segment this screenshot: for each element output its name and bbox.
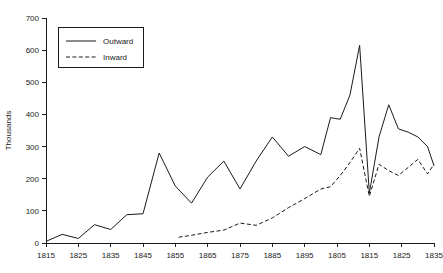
x-tick-label: 1845 — [134, 251, 152, 260]
series-line-inward — [179, 148, 434, 237]
legend-label-inward: Inward — [103, 53, 127, 62]
x-tick-label: 1885 — [263, 251, 281, 260]
x-tick-label: 1865 — [199, 251, 217, 260]
y-tick-label: 300 — [26, 143, 40, 152]
x-tick-label: 1835 — [102, 251, 120, 260]
y-tick-label: 0 — [35, 239, 40, 248]
y-tick-label: 700 — [26, 14, 40, 23]
y-axis-title: Thousands — [4, 111, 13, 151]
y-axis-tick-group: 0100200300400500600700 — [26, 14, 46, 248]
x-tick-label: 1815 — [37, 251, 55, 260]
legend-label-outward: Outward — [103, 37, 133, 46]
y-tick-label: 400 — [26, 110, 40, 119]
y-tick-label: 100 — [26, 207, 40, 216]
x-tick-label: 1895 — [296, 251, 314, 260]
y-tick-label: 500 — [26, 78, 40, 87]
series-line-outward — [46, 45, 434, 241]
x-tick-label: 1835 — [425, 251, 443, 260]
x-tick-label: 1815 — [360, 251, 378, 260]
y-tick-label: 200 — [26, 175, 40, 184]
chart-canvas: 0100200300400500600700 18151825183518451… — [0, 0, 443, 273]
line-chart: 0100200300400500600700 18151825183518451… — [0, 0, 443, 273]
chart-legend: Outward Inward — [58, 27, 143, 67]
x-tick-label: 1825 — [69, 251, 87, 260]
x-tick-label: 1825 — [393, 251, 411, 260]
y-tick-label: 600 — [26, 46, 40, 55]
x-tick-label: 1805 — [328, 251, 346, 260]
x-tick-label: 1875 — [231, 251, 249, 260]
legend-box — [58, 27, 143, 67]
x-tick-label: 1855 — [166, 251, 184, 260]
x-axis-tick-group: 1815182518351845185518651875188518951805… — [37, 243, 443, 260]
